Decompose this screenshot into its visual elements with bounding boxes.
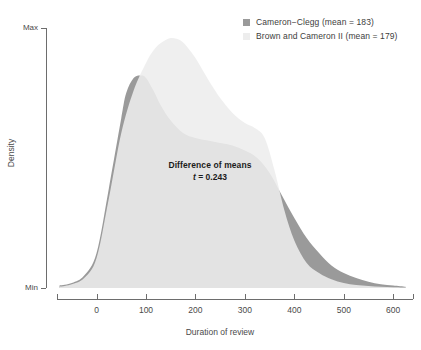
legend-label-brown-cameron-ii: Brown and Cameron II (mean = 179) bbox=[256, 31, 398, 41]
x-axis-tick-label-0: 0 bbox=[82, 305, 112, 315]
x-axis-end-cap-right bbox=[413, 294, 414, 299]
legend-item-cameron-clegg[interactable]: Cameron−Clegg (mean = 183) bbox=[243, 16, 398, 28]
y-axis-tick-min bbox=[41, 288, 46, 289]
legend: Cameron−Clegg (mean = 183) Brown and Cam… bbox=[243, 16, 398, 44]
legend-item-brown-cameron-ii[interactable]: Brown and Cameron II (mean = 179) bbox=[243, 30, 398, 42]
x-axis-tick-100 bbox=[146, 294, 147, 299]
y-axis-tick-max bbox=[41, 28, 46, 29]
x-axis-tick-label-200: 200 bbox=[180, 305, 210, 315]
y-axis-tick-label-max: Max bbox=[12, 23, 38, 32]
legend-swatch-icon-cameron-clegg bbox=[243, 19, 250, 26]
y-axis-tick-label-min: Min bbox=[12, 283, 38, 292]
x-axis-tick-label-500: 500 bbox=[329, 305, 359, 315]
difference-of-means-annotation: Difference of means t = 0.243 bbox=[135, 160, 285, 182]
y-axis-title: Density bbox=[6, 123, 16, 183]
annotation-line-2: t = 0.243 bbox=[135, 172, 285, 182]
x-axis-tick-500 bbox=[344, 294, 345, 299]
legend-swatch-icon-brown-cameron-ii bbox=[243, 33, 250, 40]
x-axis-tick-label-600: 600 bbox=[378, 305, 408, 315]
x-axis-tick-0 bbox=[97, 294, 98, 299]
x-axis-tick-label-300: 300 bbox=[230, 305, 260, 315]
annotation-t-value: = 0.243 bbox=[196, 172, 227, 182]
x-axis-end-cap-left bbox=[57, 294, 58, 299]
x-axis-title: Duration of review bbox=[155, 327, 285, 337]
x-axis-line bbox=[57, 299, 413, 300]
x-axis-tick-400 bbox=[294, 294, 295, 299]
y-axis-line bbox=[46, 28, 47, 288]
x-axis-tick-300 bbox=[245, 294, 246, 299]
annotation-line-1: Difference of means bbox=[135, 160, 285, 170]
x-axis-tick-label-100: 100 bbox=[131, 305, 161, 315]
x-axis-tick-label-400: 400 bbox=[279, 305, 309, 315]
legend-label-cameron-clegg: Cameron−Clegg (mean = 183) bbox=[256, 17, 374, 27]
x-axis-tick-200 bbox=[195, 294, 196, 299]
x-axis-tick-600 bbox=[393, 294, 394, 299]
density-plot-figure: Cameron−Clegg (mean = 183) Brown and Cam… bbox=[0, 0, 421, 350]
